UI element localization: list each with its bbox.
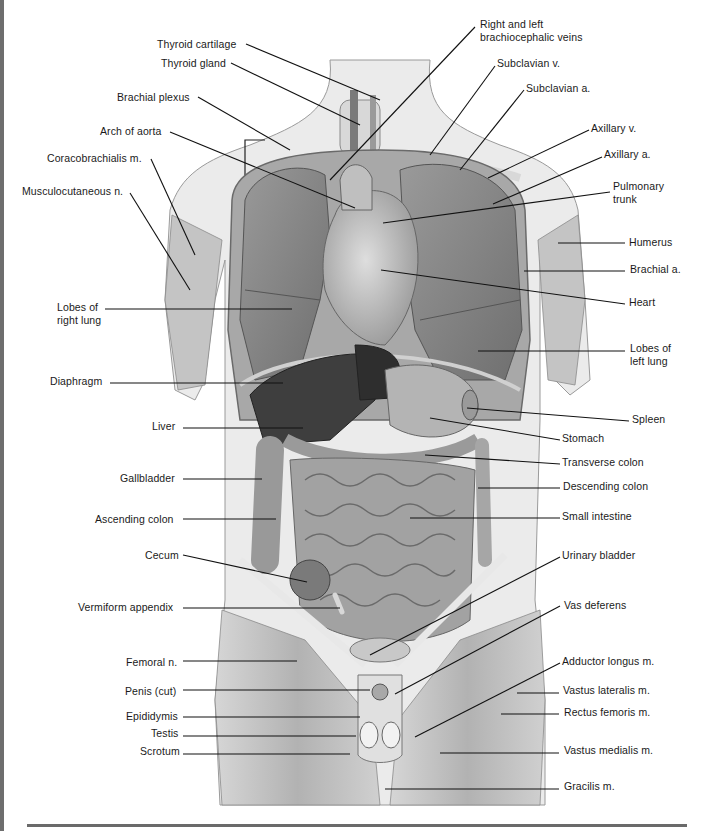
label-subclavian-a: Subclavian a. — [526, 82, 590, 95]
label-musculocutaneous: Musculocutaneous n. — [22, 185, 123, 198]
label-ascending-colon: Ascending colon — [95, 513, 174, 526]
label-penis-cut: Penis (cut) — [125, 685, 176, 698]
label-vastus-medialis: Vastus medialis m. — [564, 744, 653, 757]
label-adductor-longus: Adductor longus m. — [562, 655, 654, 668]
label-gallbladder: Gallbladder — [120, 472, 175, 485]
label-urinary-bladder: Urinary bladder — [562, 549, 635, 562]
label-thyroid-gland: Thyroid gland — [161, 57, 226, 70]
label-vastus-lateralis: Vastus lateralis m. — [563, 684, 650, 697]
bottom-rule — [27, 824, 687, 827]
label-epididymis: Epididymis — [126, 710, 178, 723]
label-femoral-n: Femoral n. — [126, 656, 177, 669]
label-subclavian-v: Subclavian v. — [497, 57, 560, 70]
label-diaphragm: Diaphragm — [50, 375, 102, 388]
label-vas-deferens: Vas deferens — [564, 599, 626, 612]
label-stomach: Stomach — [562, 432, 604, 445]
label-thyroid-cartilage: Thyroid cartilage — [157, 38, 236, 51]
label-heart: Heart — [629, 296, 655, 309]
label-humerus: Humerus — [629, 236, 672, 249]
label-transverse-colon: Transverse colon — [562, 456, 644, 469]
testis-right — [360, 722, 378, 748]
label-pulmonary-trunk: Pulmonary trunk — [613, 180, 664, 206]
label-scrotum: Scrotum — [140, 745, 180, 758]
label-axillary-a: Axillary a. — [604, 148, 651, 161]
aortic-arch — [340, 165, 372, 210]
label-coracobrachialis: Coracobrachialis m. — [47, 152, 142, 165]
ascending-colon — [265, 450, 270, 560]
label-arch-of-aorta: Arch of aorta — [100, 125, 161, 138]
label-lobes-right-lung: Lobes of right lung — [57, 301, 101, 327]
descending-colon — [482, 445, 485, 560]
label-rectus-femoris: Rectus femoris m. — [564, 706, 650, 719]
label-liver: Liver — [152, 420, 175, 433]
label-cecum: Cecum — [145, 549, 179, 562]
label-brachial-a: Brachial a. — [630, 263, 681, 276]
testis-left — [382, 722, 400, 748]
label-brachiocephalic-veins: Right and left brachiocephalic veins — [480, 18, 583, 44]
label-descending-colon: Descending colon — [563, 480, 648, 493]
penis-cut — [372, 684, 388, 700]
label-axillary-v: Axillary v. — [591, 122, 636, 135]
label-spleen: Spleen — [632, 413, 665, 426]
label-small-intestine: Small intestine — [562, 510, 632, 523]
label-vermiform-appendix: Vermiform appendix — [78, 601, 173, 614]
label-lobes-left-lung: Lobes of left lung — [630, 342, 671, 368]
label-gracilis: Gracilis m. — [564, 780, 615, 793]
spleen — [462, 390, 478, 420]
label-testis: Testis — [151, 727, 178, 740]
label-brachial-plexus: Brachial plexus — [117, 91, 190, 104]
